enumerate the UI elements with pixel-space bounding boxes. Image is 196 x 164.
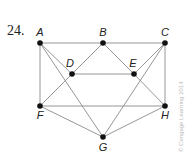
vertices: [37, 40, 168, 140]
vertex-C: [162, 40, 168, 46]
vertex-A: [37, 40, 43, 46]
vertex-label-A: A: [35, 26, 43, 38]
vertex-label-C: C: [161, 26, 169, 38]
edge-G-H: [103, 106, 165, 137]
vertex-label-H: H: [161, 109, 169, 121]
copyright-credit: © Cengage Learning 2014: [178, 82, 184, 152]
edge-F-G: [40, 106, 103, 137]
edges: [40, 43, 165, 137]
edge-E-H: [134, 74, 165, 106]
vertex-E: [131, 71, 137, 77]
vertex-F: [37, 103, 43, 109]
vertex-label-G: G: [99, 141, 108, 153]
edge-B-D: [72, 43, 103, 74]
vertex-label-E: E: [129, 57, 137, 69]
edge-D-F: [40, 74, 72, 106]
vertex-B: [100, 40, 106, 46]
edge-E-C: [134, 43, 165, 74]
vertex-D: [69, 71, 75, 77]
graph-figure: 24. ABCDEFGH © Cengage Learning 2014: [0, 0, 196, 164]
graph-diagram: ABCDEFGH: [0, 0, 196, 164]
vertex-H: [162, 103, 168, 109]
vertex-label-D: D: [66, 57, 74, 69]
vertex-label-F: F: [37, 109, 45, 121]
vertex-G: [100, 134, 106, 140]
vertex-label-B: B: [99, 26, 106, 38]
